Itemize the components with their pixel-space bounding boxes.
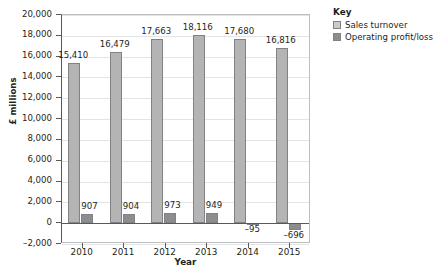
gridline [62, 98, 309, 99]
bar-value-label: 973 [164, 201, 180, 210]
plot-area [61, 14, 310, 243]
y-axis-tick-label: 10,000 [0, 114, 52, 123]
zero-baseline [61, 223, 309, 224]
y-axis-tick-label: 16,000 [0, 51, 52, 60]
bar-sales-turnover-2013 [193, 35, 205, 224]
bar-operating-profit-loss-2012 [164, 213, 176, 223]
legend-title: Key [333, 8, 439, 17]
y-axis-tick-label: 2,000 [0, 197, 52, 206]
y-axis-tick-label: 8,000 [0, 134, 52, 143]
bar-sales-turnover-2014 [234, 39, 246, 223]
bar-sales-turnover-2011 [110, 52, 122, 224]
gridline [62, 140, 309, 141]
bar-operating-profit-loss-2015 [289, 223, 301, 230]
y-axis-tick-label: 12,000 [0, 93, 52, 102]
y-axis-tick-label: 14,000 [0, 72, 52, 81]
gridline [62, 77, 309, 78]
bar-sales-turnover-2012 [151, 39, 163, 223]
legend: Key Sales turnover Operating profit/loss [333, 8, 439, 45]
bar-sales-turnover-2010 [68, 63, 80, 223]
bar-value-label: –95 [236, 225, 268, 234]
y-axis-tick-label: 4,000 [0, 176, 52, 185]
bar-value-label: 18,116 [182, 23, 214, 32]
bar-operating-profit-loss-2013 [206, 213, 218, 223]
gridline [62, 202, 309, 203]
gridline [62, 182, 309, 183]
legend-swatch-icon-sales-turnover [333, 21, 341, 29]
bar-value-label: 949 [206, 201, 222, 210]
y-axis-tick-label: 0 [0, 218, 52, 227]
legend-label-sales-turnover: Sales turnover [345, 21, 407, 30]
gridline [62, 161, 309, 162]
y-axis-tick-label: 6,000 [0, 155, 52, 164]
gridline [62, 15, 309, 16]
bar-value-label: –696 [278, 231, 310, 240]
chart-canvas: £ millions 20,00018,00016,00014,00012,00… [0, 0, 442, 266]
gridline [62, 57, 309, 58]
bar-operating-profit-loss-2010 [81, 214, 93, 223]
y-axis-tick-mark [56, 243, 61, 244]
bar-value-label: 904 [123, 202, 139, 211]
bar-sales-turnover-2015 [276, 48, 288, 223]
x-axis-tick-label-2015: 2015 [265, 248, 313, 257]
gridline [62, 119, 309, 120]
y-axis-tick-label: 20,000 [0, 10, 52, 19]
legend-item-operating-profit-loss[interactable]: Operating profit/loss [333, 33, 439, 42]
gridline [62, 244, 309, 245]
bar-operating-profit-loss-2011 [123, 214, 135, 223]
legend-swatch-icon-operating-profit-loss [333, 33, 341, 41]
y-axis-tick-label: 18,000 [0, 30, 52, 39]
bar-value-label: 17,680 [223, 27, 255, 36]
x-axis-title: Year [61, 258, 310, 266]
bar-value-label: 907 [81, 202, 97, 211]
bar-value-label: 17,663 [140, 27, 172, 36]
legend-item-sales-turnover[interactable]: Sales turnover [333, 21, 439, 30]
bar-value-label: 16,816 [265, 36, 297, 45]
y-axis-tick-label: –2,000 [0, 239, 52, 248]
bar-value-label: 16,479 [99, 40, 131, 49]
bar-value-label: 15,410 [57, 51, 89, 60]
legend-label-operating-profit-loss: Operating profit/loss [345, 33, 433, 42]
